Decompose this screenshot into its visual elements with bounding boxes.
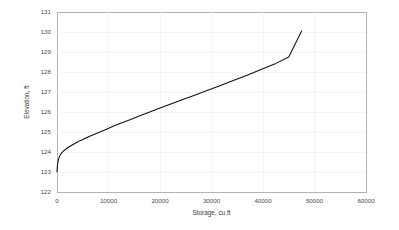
y-tick-label: 125 bbox=[41, 128, 52, 135]
x-tick-label: 50000 bbox=[306, 197, 324, 204]
y-tick-label: 122 bbox=[41, 188, 52, 195]
y-tick-label: 127 bbox=[41, 88, 52, 95]
x-tick-label: 10000 bbox=[100, 197, 118, 204]
y-tick-label: 128 bbox=[41, 68, 52, 75]
x-tick-label: 0 bbox=[55, 197, 59, 204]
y-axis-title: Elevation, ft bbox=[23, 85, 30, 119]
y-tick-label: 126 bbox=[41, 108, 52, 115]
x-axis-title: Storage, cu.ft bbox=[192, 209, 230, 217]
y-tick-label: 124 bbox=[41, 148, 52, 155]
y-tick-label: 130 bbox=[41, 28, 52, 35]
storage-elevation-line-chart: 0100002000030000400005000060000 12212312… bbox=[0, 0, 399, 230]
y-tick-label: 131 bbox=[41, 8, 52, 15]
x-tick-label: 60000 bbox=[357, 197, 375, 204]
chart-container: 0100002000030000400005000060000 12212312… bbox=[0, 0, 399, 230]
y-tick-label: 129 bbox=[41, 48, 52, 55]
x-tick-label: 20000 bbox=[151, 197, 169, 204]
x-tick-label: 40000 bbox=[254, 197, 272, 204]
y-tick-label: 123 bbox=[41, 168, 52, 175]
x-tick-label: 30000 bbox=[203, 197, 221, 204]
